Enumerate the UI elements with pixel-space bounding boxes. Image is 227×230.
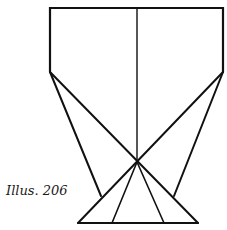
- illustration-caption: Illus. 206: [6, 183, 68, 198]
- right-diagonal-crease: [78, 72, 223, 223]
- left-diagonal-crease: [50, 72, 198, 223]
- inner-left-fold: [112, 162, 137, 223]
- inner-right-fold: [137, 162, 164, 223]
- right-outer-side: [174, 72, 223, 196]
- left-outer-side: [50, 72, 101, 196]
